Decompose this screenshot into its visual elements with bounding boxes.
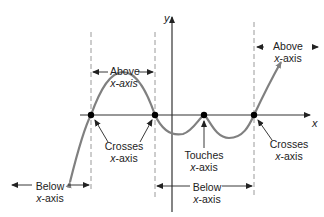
y-axis-label: y [164, 12, 170, 24]
label-crosses-right-line2: x-axis [266, 150, 312, 162]
label-crosses-left-line2: x-axis [102, 152, 146, 164]
label-above-right-line1: Above [265, 40, 311, 52]
label-above-right-line2: x-axis [265, 52, 311, 64]
label-crosses-left-line1: Crosses [102, 140, 146, 152]
label-below-left: Below x-axis [34, 180, 66, 204]
label-crosses-right-line1: Crosses [266, 138, 312, 150]
label-above-left-line2: x-axis [110, 77, 138, 89]
label-touches-line1: Touches [180, 149, 228, 161]
label-below-middle: Below x-axis [192, 181, 222, 205]
crosses-left-pointer-b [140, 120, 152, 142]
label-below-left-line2: x-axis [34, 192, 66, 204]
intercept-point-3 [201, 112, 207, 118]
label-below-left-line1: Below [34, 180, 66, 192]
intercept-point-2 [152, 112, 158, 118]
x-axis-label: x [312, 117, 318, 129]
crosses-left-pointer-a [95, 120, 108, 142]
label-crosses-right: Crosses x-axis [266, 138, 312, 162]
label-crosses-left: Crosses x-axis [102, 140, 146, 164]
label-above-left: Above x-axis [110, 65, 138, 89]
label-below-middle-line2: x-axis [192, 193, 222, 205]
label-below-middle-line1: Below [192, 181, 222, 193]
label-above-right: Above x-axis [265, 40, 311, 64]
crosses-right-pointer [258, 120, 272, 140]
polynomial-curve [70, 62, 281, 182]
label-above-left-line1: Above [110, 65, 138, 77]
intercept-point-4 [251, 112, 257, 118]
intercept-point-1 [88, 112, 94, 118]
label-touches: Touches x-axis [180, 149, 228, 173]
label-touches-line2: x-axis [180, 161, 228, 173]
